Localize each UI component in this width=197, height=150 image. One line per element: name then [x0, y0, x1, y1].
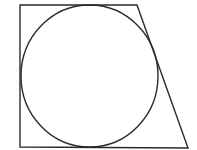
trapezoid-shape: [20, 5, 188, 148]
inscribed-circle: [21, 5, 158, 147]
diagram-canvas: [0, 0, 197, 150]
diagram-svg: [0, 0, 197, 150]
